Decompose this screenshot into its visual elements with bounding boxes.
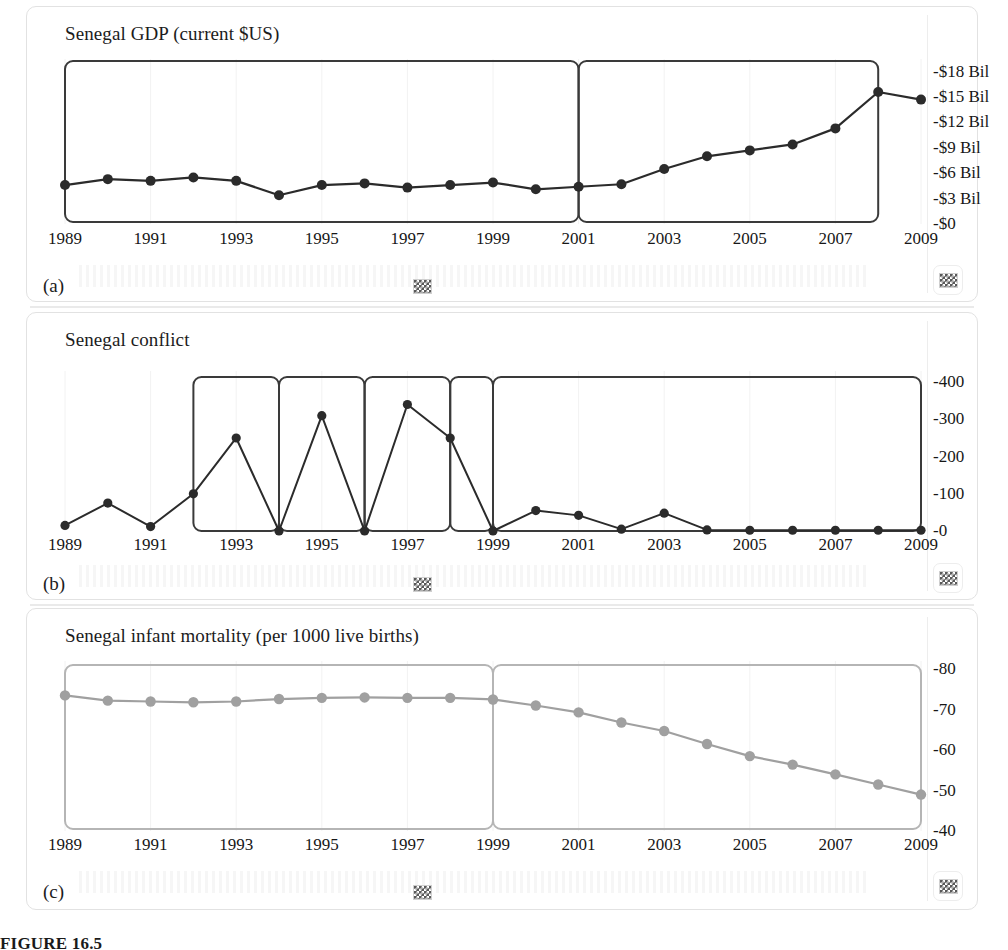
panel-letter-c: (c) xyxy=(43,881,64,903)
checkerboard-badge-frame-c xyxy=(933,871,963,901)
x-tick-label: 1997 xyxy=(390,535,424,555)
x-tick-label: 2003 xyxy=(647,229,681,249)
x-tick-label: 1997 xyxy=(390,229,424,249)
data-point xyxy=(873,779,883,789)
checkerboard-icon xyxy=(939,879,958,894)
chart-panel-a: Senegal GDP (current $US) -$0-$3 Bil-$6 … xyxy=(26,6,978,302)
checkerboard-badge-frame-a xyxy=(933,265,963,295)
data-point xyxy=(574,182,584,192)
x-tick-label: 2003 xyxy=(647,535,681,555)
x-tick-label: 1995 xyxy=(305,229,339,249)
y-tick-label: -70 xyxy=(933,700,956,720)
x-tick-label: 1993 xyxy=(219,835,253,855)
x-tick-label: 2007 xyxy=(818,535,852,555)
data-point xyxy=(317,180,327,190)
chart-title-a: Senegal GDP (current $US) xyxy=(65,23,279,45)
data-point xyxy=(274,190,284,200)
y-tick-label: -50 xyxy=(933,781,956,801)
data-point xyxy=(531,506,540,515)
x-axis-labels-b: 1989199119931995199719992001200320052007… xyxy=(65,535,945,557)
x-tick-label: 1989 xyxy=(48,229,82,249)
data-point xyxy=(573,707,583,717)
data-point xyxy=(830,769,840,779)
data-point xyxy=(146,522,155,531)
chart-svg-c xyxy=(65,661,921,831)
data-point xyxy=(745,526,754,535)
data-point xyxy=(659,726,669,736)
y-tick-label: -400 xyxy=(933,372,964,392)
y-tick-label: -$9 Bil xyxy=(933,138,981,158)
data-point xyxy=(616,717,626,727)
checkerboard-badge-frame-b xyxy=(933,563,963,593)
data-point xyxy=(402,693,412,703)
data-point xyxy=(702,151,712,161)
data-point xyxy=(488,694,498,704)
data-point xyxy=(916,526,925,535)
figure-page: Senegal GDP (current $US) -$0-$3 Bil-$6 … xyxy=(0,0,1008,950)
data-point xyxy=(745,751,755,761)
data-point xyxy=(787,759,797,769)
data-point xyxy=(188,172,198,182)
chart-title-c: Senegal infant mortality (per 1000 live … xyxy=(65,625,419,647)
data-point xyxy=(574,511,583,520)
x-tick-label: 1997 xyxy=(390,835,424,855)
scan-artifact-strip-c xyxy=(79,871,869,893)
chart-svg-a xyxy=(65,59,921,224)
x-tick-label: 1993 xyxy=(219,535,253,555)
x-tick-label: 2005 xyxy=(733,835,767,855)
y-tick-label: -80 xyxy=(933,659,956,679)
checkerboard-icon xyxy=(413,279,432,294)
highlight-box xyxy=(65,665,493,829)
panel-gutter-rule-a xyxy=(927,15,928,293)
scan-seam-1 xyxy=(30,306,974,308)
x-tick-label: 2007 xyxy=(818,835,852,855)
data-point xyxy=(231,696,241,706)
x-tick-label: 1991 xyxy=(134,229,168,249)
x-tick-label: 2003 xyxy=(647,835,681,855)
x-tick-label: 2007 xyxy=(818,229,852,249)
data-point xyxy=(660,509,669,518)
x-tick-label: 2005 xyxy=(733,535,767,555)
plot-area-a xyxy=(65,59,921,224)
data-point xyxy=(360,178,370,188)
data-point xyxy=(830,123,840,133)
data-point xyxy=(103,174,113,184)
plot-area-b xyxy=(65,371,921,531)
data-point xyxy=(488,178,498,188)
data-point xyxy=(402,183,412,193)
data-point xyxy=(60,180,70,190)
scan-seam-2 xyxy=(30,604,974,606)
highlight-box xyxy=(579,61,879,222)
data-point xyxy=(788,526,797,535)
chart-svg-b xyxy=(65,371,921,531)
x-tick-label: 2001 xyxy=(562,229,596,249)
data-point xyxy=(616,179,626,189)
data-point xyxy=(617,525,626,534)
highlight-box xyxy=(493,377,921,531)
scan-artifact-strip-b xyxy=(79,565,869,587)
data-point xyxy=(531,184,541,194)
data-point xyxy=(317,693,327,703)
y-tick-label: -$18 Bil xyxy=(933,62,989,82)
plot-area-c xyxy=(65,661,921,831)
x-tick-label: 2001 xyxy=(562,535,596,555)
checkerboard-icon xyxy=(939,273,958,288)
x-tick-label: 1993 xyxy=(219,229,253,249)
x-tick-label: 1989 xyxy=(48,835,82,855)
data-point xyxy=(103,695,113,705)
data-point xyxy=(103,498,112,507)
x-tick-label: 2009 xyxy=(904,229,938,249)
data-point xyxy=(359,692,369,702)
chart-panel-b: Senegal conflict -0-100-200-300-400 1989… xyxy=(26,312,978,600)
x-tick-label: 2009 xyxy=(904,835,938,855)
x-tick-label: 1999 xyxy=(476,229,510,249)
y-tick-label: -$6 Bil xyxy=(933,163,981,183)
x-tick-label: 2001 xyxy=(562,835,596,855)
checkerboard-icon xyxy=(413,577,432,592)
x-tick-label: 2005 xyxy=(733,229,767,249)
y-tick-label: -300 xyxy=(933,409,964,429)
panel-letter-a: (a) xyxy=(43,275,64,297)
scan-artifact-strip-a xyxy=(79,265,869,287)
y-tick-label: -$15 Bil xyxy=(933,87,989,107)
data-point xyxy=(702,739,712,749)
